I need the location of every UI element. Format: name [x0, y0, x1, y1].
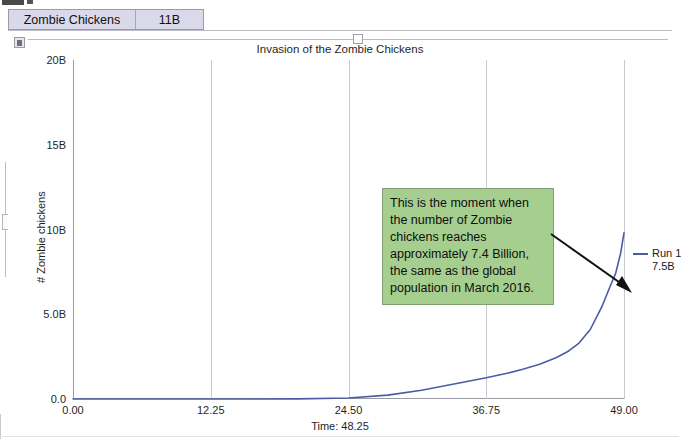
y-tick-label: 20B — [46, 54, 66, 66]
x-tick-label: 36.75 — [472, 404, 500, 416]
horizontal-slider-track[interactable] — [28, 39, 668, 40]
window-top-edge — [0, 0, 679, 7]
legend-color-swatch-run-1 — [633, 253, 648, 255]
tab-11b[interactable]: 11B — [135, 10, 203, 29]
window-bottom-rule — [0, 436, 679, 437]
x-axis-label: Time: 48.25 — [8, 420, 672, 432]
tab-11b-label: 11B — [159, 13, 180, 27]
y-tick-label: 5.0B — [43, 308, 66, 320]
window-control-fragment-2 — [27, 0, 33, 4]
tab-bar: Zombie Chickens 11B — [8, 9, 204, 30]
window-control-fragment — [2, 0, 24, 5]
y-tick-label: 15B — [46, 139, 66, 151]
x-tick-label: 12.25 — [197, 404, 225, 416]
chart-legend: Run 1 7.5B — [633, 247, 681, 273]
x-tick-label: 24.50 — [335, 404, 363, 416]
tab-zombie-chickens-label: Zombie Chickens — [24, 13, 121, 27]
y-tick-label: 10B — [46, 224, 66, 236]
y-axis-label: # Zombie chickens — [35, 191, 47, 283]
x-tick-label: 0.00 — [62, 404, 83, 416]
legend-series-label: Run 1 — [652, 247, 681, 259]
legend-value-label: 7.5B — [652, 260, 681, 273]
annotation-callout: This is the moment when the number of Zo… — [382, 188, 554, 305]
chart-title: Invasion of the Zombie Chickens — [8, 43, 672, 55]
chart-panel: Invasion of the Zombie Chickens # Zombie… — [8, 31, 672, 431]
gridline-vertical — [624, 60, 625, 399]
legend-text-run-1: Run 1 7.5B — [652, 247, 681, 273]
x-tick-label: 49.00 — [610, 404, 638, 416]
tab-zombie-chickens[interactable]: Zombie Chickens — [9, 10, 135, 29]
